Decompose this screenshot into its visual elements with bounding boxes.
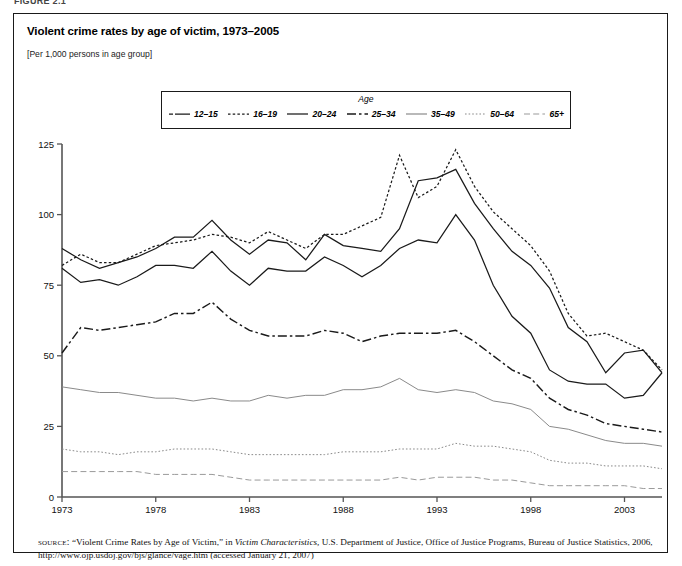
source-italic-1: Victim Characteristics, [235,537,320,547]
legend-item-label: 25–34 [372,109,396,119]
legend-item-25-34: 25–34 [346,109,396,119]
legend-item-16-19: 16–19 [227,109,277,119]
legend-line-swatch [405,110,427,118]
legend-item-20-24: 20–24 [286,109,336,119]
chart-legend: Age 12–1516–1920–2425–3435–4950–6465+ [161,91,571,129]
source-label: source: [38,536,70,547]
legend-item-65+: 65+ [523,109,564,119]
legend-items: 12–1516–1920–2425–3435–4950–6465+ [168,109,564,119]
legend-item-50-64: 50–64 [464,109,514,119]
source-note: source: “Violent Crime Rates by Age of V… [38,535,670,562]
legend-line-swatch [227,110,249,118]
legend-item-label: 20–24 [312,109,336,119]
page-title: Violent crime rates by age of victim, 19… [27,25,279,37]
legend-line-swatch [286,110,308,118]
legend-item-35-49: 35–49 [405,109,455,119]
figure-box: Violent crime rates by age of victim, 19… [13,13,668,553]
legend-item-label: 12–15 [194,109,218,119]
legend-line-swatch [464,110,486,118]
chart-units-note: [Per 1,000 persons in age group] [27,49,152,59]
legend-title: Age [162,94,570,104]
legend-item-label: 65+ [549,109,564,119]
legend-item-label: 16–19 [253,109,277,119]
legend-item-12-15: 12–15 [168,109,218,119]
legend-item-label: 50–64 [490,109,514,119]
legend-line-swatch [346,110,368,118]
legend-item-label: 35–49 [431,109,455,119]
legend-line-swatch [168,110,190,118]
legend-line-swatch [523,110,545,118]
source-text-1: “Violent Crime Rates by Age of Victim,” … [72,537,235,547]
figure-label: FIGURE 2.1 [14,0,66,6]
